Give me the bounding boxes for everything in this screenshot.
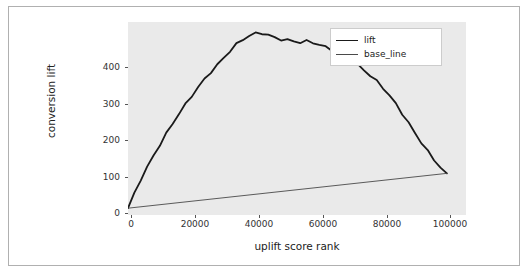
x-tick-label: 0 — [101, 219, 161, 229]
y-tickmark — [125, 213, 128, 214]
chart-legend: lift base_line — [330, 28, 442, 66]
legend-label: lift — [364, 35, 376, 45]
x-tickmark — [195, 215, 196, 218]
legend-item-base-line: base_line — [336, 47, 436, 61]
legend-label: base_line — [364, 49, 406, 59]
x-tick-label: 60000 — [293, 219, 353, 229]
x-axis-label: uplift score rank — [128, 240, 466, 252]
x-tickmark — [323, 215, 324, 218]
y-tick-label: 100 — [80, 172, 120, 182]
x-tick-label: 20000 — [165, 219, 225, 229]
y-tickmark — [125, 177, 128, 178]
x-tick-label: 80000 — [357, 219, 417, 229]
legend-item-lift: lift — [336, 33, 436, 47]
y-tick-label: 400 — [80, 62, 120, 72]
x-tickmark — [131, 215, 132, 218]
y-tick-label: 0 — [80, 208, 120, 218]
series-line-base_line — [128, 173, 447, 208]
y-tickmark — [125, 104, 128, 105]
legend-swatch — [336, 54, 358, 55]
x-tickmark — [450, 215, 451, 218]
y-axis-label: conversion lift — [45, 5, 57, 198]
y-tick-label: 300 — [80, 99, 120, 109]
y-tickmark — [125, 140, 128, 141]
y-tickmark — [125, 67, 128, 68]
legend-swatch — [336, 40, 358, 41]
x-tickmark — [387, 215, 388, 218]
x-tickmark — [259, 215, 260, 218]
y-tick-label: 200 — [80, 135, 120, 145]
x-tick-label: 40000 — [229, 219, 289, 229]
chart-figure: 0 20000 40000 60000 80000 100000 0 100 2… — [0, 0, 528, 273]
x-tick-label: 100000 — [420, 219, 480, 229]
